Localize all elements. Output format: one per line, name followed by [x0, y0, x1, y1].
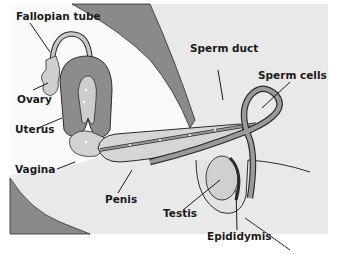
- label-testis: Testis: [163, 208, 197, 219]
- label-penis: Penis: [105, 194, 137, 205]
- label-ovary: Ovary: [17, 94, 52, 105]
- label-vagina: Vagina: [15, 164, 55, 175]
- label-sperm-duct: Sperm duct: [190, 43, 258, 54]
- label-sperm-cells: Sperm cells: [258, 70, 327, 81]
- reproduction-diagram: Fallopian tube Ovary Uterus Vagina Penis…: [0, 0, 338, 254]
- label-epididymis: Epididymis: [207, 231, 272, 242]
- label-uterus: Uterus: [15, 124, 55, 135]
- label-fallopian-tube: Fallopian tube: [16, 11, 101, 22]
